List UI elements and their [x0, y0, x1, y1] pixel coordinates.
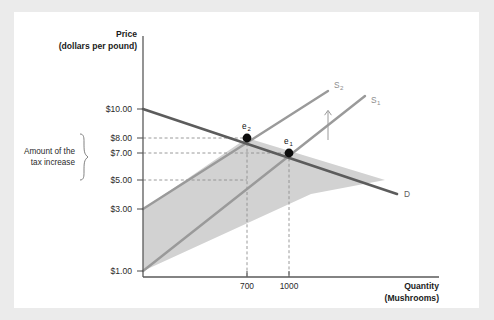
y-axis-title-line2: (dollars per pound) [59, 41, 137, 51]
x-axis-title-line2: (Mushrooms) [385, 293, 440, 303]
supply-demand-chart: $10.00 $8.00 $7.00 $5.00 $3.00 $1.00 700… [14, 12, 479, 308]
eq-dot-e2 [243, 134, 252, 143]
tax-increase-label-line1: Amount of the [24, 147, 75, 156]
curve-label-d-text: D [404, 189, 410, 199]
equilibrium-point-e1: e 1 [284, 137, 294, 157]
tax-increase-brace-icon [80, 134, 88, 180]
x-axis-title: Quantity (Mushrooms) [385, 281, 440, 303]
eq-label-e2-subscript: 2 [248, 126, 252, 132]
eq-label-e2-text: e [242, 122, 247, 131]
supply-shift-arrow [325, 110, 332, 140]
curve-label-s2-subscript: 2 [340, 84, 344, 91]
x-axis-title-line1: Quantity [404, 281, 439, 291]
curve-label-s1: S 1 [371, 95, 381, 106]
y-tick-label-3: $5.00 [110, 175, 132, 185]
eq-label-e1-subscript: 1 [290, 141, 294, 147]
eq-label-e1-text: e [284, 137, 289, 146]
tax-increase-annotation: Amount of the tax increase [24, 134, 88, 180]
curve-label-s1-subscript: 1 [377, 99, 381, 106]
x-axis-tick-labels: 700 1000 [240, 281, 299, 291]
x-axis-ticks [247, 271, 289, 277]
y-tick-label-5: $1.00 [110, 266, 132, 276]
tax-increase-label-line2: tax increase [31, 158, 76, 167]
screenshot-root: $10.00 $8.00 $7.00 $5.00 $3.00 $1.00 700… [0, 0, 494, 320]
curve-label-d: D [404, 189, 410, 199]
equilibrium-point-e2: e 2 [242, 122, 252, 142]
figure-card: $10.00 $8.00 $7.00 $5.00 $3.00 $1.00 700… [14, 12, 479, 308]
y-tick-label-0: $10.00 [106, 104, 133, 114]
x-tick-label-0: 700 [240, 281, 254, 291]
y-tick-label-2: $7.00 [110, 148, 132, 158]
y-axis-ticks [137, 109, 143, 271]
y-axis-title-line1: Price [116, 29, 137, 39]
y-tick-label-1: $8.00 [110, 133, 132, 143]
y-axis-tick-labels: $10.00 $8.00 $7.00 $5.00 $3.00 $1.00 [106, 104, 133, 276]
x-tick-label-1: 1000 [280, 281, 299, 291]
y-tick-label-4: $3.00 [110, 204, 132, 214]
eq-dot-e1 [285, 149, 294, 158]
y-axis-title: Price (dollars per pound) [59, 29, 138, 51]
curve-label-s2: S 2 [334, 80, 344, 91]
tax-wedge-region [143, 138, 385, 271]
